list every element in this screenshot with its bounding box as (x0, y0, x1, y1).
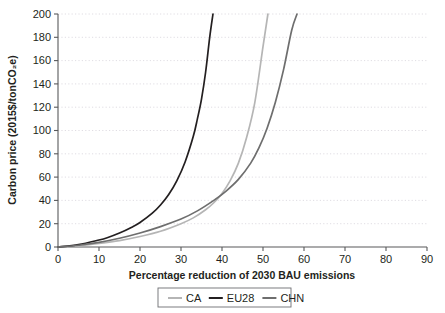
legend-label-eu28[interactable]: EU28 (227, 292, 255, 304)
y-tick-label-40: 40 (39, 194, 51, 206)
legend[interactable]: CAEU28CHN (158, 288, 304, 307)
x-tick-label-0: 0 (55, 253, 61, 265)
x-tick-label-70: 70 (339, 253, 351, 265)
legend-items-group[interactable]: CAEU28CHN (168, 292, 304, 304)
x-axis-title: Percentage reduction of 2030 BAU emissio… (129, 269, 356, 281)
x-tick-label-90: 90 (421, 253, 433, 265)
x-tick-label-30: 30 (175, 253, 187, 265)
x-tick-label-60: 60 (298, 253, 310, 265)
carbon-price-line-chart: 020406080100120140160180200 010203040506… (0, 0, 445, 313)
y-tick-label-0: 0 (45, 241, 51, 253)
y-tick-label-100: 100 (33, 124, 51, 136)
x-tick-label-20: 20 (134, 253, 146, 265)
x-tick-label-50: 50 (257, 253, 269, 265)
y-axis-title: Carbon price (2015$/tonCO₂e) (6, 55, 18, 204)
x-tick-label-40: 40 (216, 253, 228, 265)
legend-label-ca[interactable]: CA (186, 292, 202, 304)
y-tick-label-120: 120 (33, 101, 51, 113)
y-tick-label-160: 160 (33, 54, 51, 66)
x-tick-label-10: 10 (93, 253, 105, 265)
chart-background (0, 0, 445, 313)
y-tick-label-140: 140 (33, 78, 51, 90)
y-tick-label-200: 200 (33, 8, 51, 20)
y-tick-label-180: 180 (33, 31, 51, 43)
legend-label-chn[interactable]: CHN (280, 292, 304, 304)
y-tick-label-60: 60 (39, 171, 51, 183)
x-tick-label-80: 80 (380, 253, 392, 265)
chart-figure: 020406080100120140160180200 010203040506… (0, 0, 445, 313)
y-tick-label-20: 20 (39, 218, 51, 230)
y-tick-label-80: 80 (39, 148, 51, 160)
